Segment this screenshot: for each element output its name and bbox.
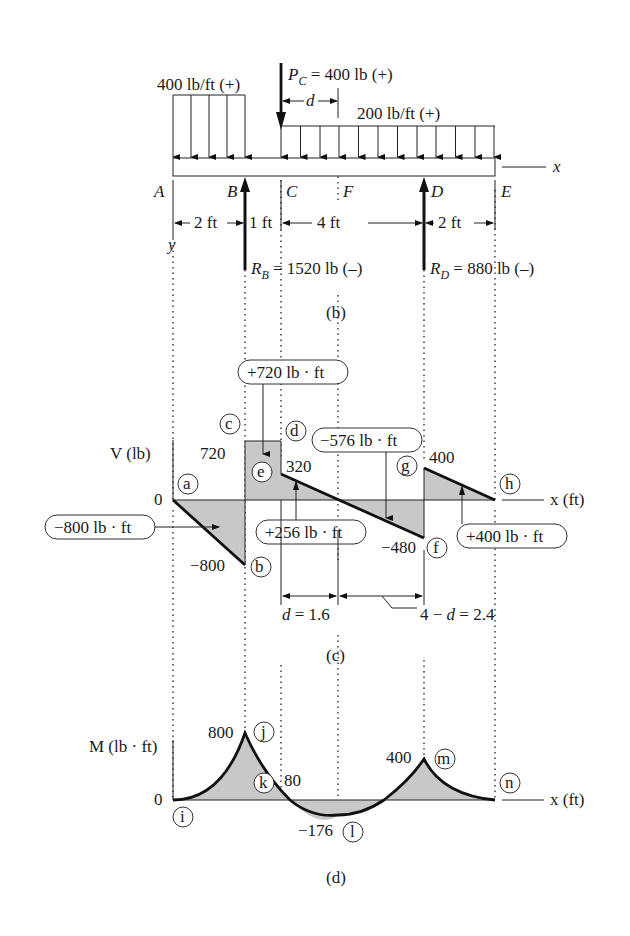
d-label: d	[306, 91, 315, 110]
value-m-neg176: −176	[298, 821, 333, 840]
point-F: F	[342, 182, 354, 201]
distributed-load-400	[173, 95, 245, 157]
label-b: b	[251, 557, 271, 577]
svg-text:l: l	[350, 822, 355, 841]
distributed-load-200	[281, 126, 495, 157]
label-j: j	[254, 722, 274, 742]
svg-text:j: j	[260, 722, 266, 741]
dim-4ft: 4 ft	[317, 213, 340, 232]
svg-text:d: d	[290, 421, 299, 440]
zero-label-d: 0	[154, 790, 163, 809]
svg-text:+400 lb · ft: +400 lb · ft	[466, 527, 543, 546]
svg-text:g: g	[401, 456, 410, 475]
x-axis-label-d: x (ft)	[550, 790, 584, 809]
dim-2ft-right: 2 ft	[438, 213, 461, 232]
label-e: e	[252, 462, 272, 482]
value-neg480: −480	[381, 538, 416, 557]
label-m: m	[435, 749, 455, 769]
x-axis-label: x	[552, 157, 561, 176]
point-B: B	[227, 182, 238, 201]
svg-text:+720 lb · ft: +720 lb · ft	[247, 363, 324, 382]
label-g: g	[397, 456, 417, 476]
reaction-D-label: RD = 880 lb (–)	[429, 259, 534, 282]
x-axis-label-c: x (ft)	[550, 490, 584, 509]
svg-text:e: e	[257, 462, 265, 481]
svg-text:−800 lb · ft: −800 lb · ft	[54, 518, 131, 537]
label-k: k	[254, 773, 274, 793]
point-C: C	[286, 182, 298, 201]
dim-2ft-left: 2 ft	[194, 213, 217, 232]
load-left-label: 400 lb/ft (+)	[157, 75, 240, 94]
value-720: 720	[200, 444, 226, 463]
point-load-label: PC = 400 lb (+)	[287, 65, 393, 88]
caption-c: (c)	[326, 646, 345, 665]
reaction-B-label: RB = 1520 lb (–)	[250, 259, 362, 282]
zero-label-c: 0	[154, 490, 163, 509]
loaded-beam: x 400 lb/ft (+) PC = 400 lb (+) d	[153, 63, 561, 322]
caption-d: (d)	[326, 868, 346, 887]
label-f: f	[427, 538, 447, 558]
svg-text:b: b	[255, 557, 264, 576]
y-axis-label: y	[166, 235, 176, 254]
value-320: 320	[286, 457, 312, 476]
beam-body	[173, 158, 495, 176]
svg-text:n: n	[505, 773, 514, 792]
moment-region-positive-1	[173, 733, 290, 800]
label-n: n	[500, 773, 520, 793]
label-d: d	[286, 421, 306, 441]
moment-diagram: x (ft) M (lb · ft) 0 800 80 −176 400 i j…	[89, 722, 584, 887]
value-neg800: −800	[190, 556, 225, 575]
label-c: c	[220, 414, 240, 434]
value-400: 400	[429, 448, 455, 467]
value-m400: 400	[386, 748, 412, 767]
rest-equals-label: 4 − d = 2.4	[420, 605, 495, 624]
label-l: l	[343, 822, 363, 842]
point-A: A	[153, 182, 165, 201]
label-i: i	[173, 807, 193, 827]
dim-1ft: 1 ft	[249, 213, 272, 232]
svg-text:−576 lb · ft: −576 lb · ft	[320, 431, 397, 450]
caption-b: (b)	[326, 303, 346, 322]
load-right-label: 200 lb/ft (+)	[357, 104, 440, 123]
svg-text:f: f	[433, 538, 439, 557]
svg-text:c: c	[225, 414, 233, 433]
m-axis-label: M (lb · ft)	[89, 737, 157, 756]
svg-text:m: m	[437, 749, 450, 768]
value-m800: 800	[208, 723, 234, 742]
svg-text:+256 lb · ft: +256 lb · ft	[265, 523, 342, 542]
value-m80: 80	[284, 771, 301, 790]
point-E: E	[500, 182, 512, 201]
shear-diagram: x (ft) V (lb) 0 720 320 −800 −480 400 a …	[45, 360, 584, 665]
svg-text:i: i	[180, 807, 185, 826]
label-a: a	[178, 474, 198, 494]
beam-diagram-figure: x 400 lb/ft (+) PC = 400 lb (+) d	[0, 0, 630, 936]
d-equals-label: d = 1.6	[282, 605, 330, 624]
label-h: h	[500, 474, 520, 494]
v-axis-label: V (lb)	[110, 444, 151, 463]
svg-text:h: h	[505, 474, 514, 493]
svg-text:a: a	[183, 474, 191, 493]
point-D: D	[430, 182, 444, 201]
svg-text:k: k	[259, 773, 268, 792]
